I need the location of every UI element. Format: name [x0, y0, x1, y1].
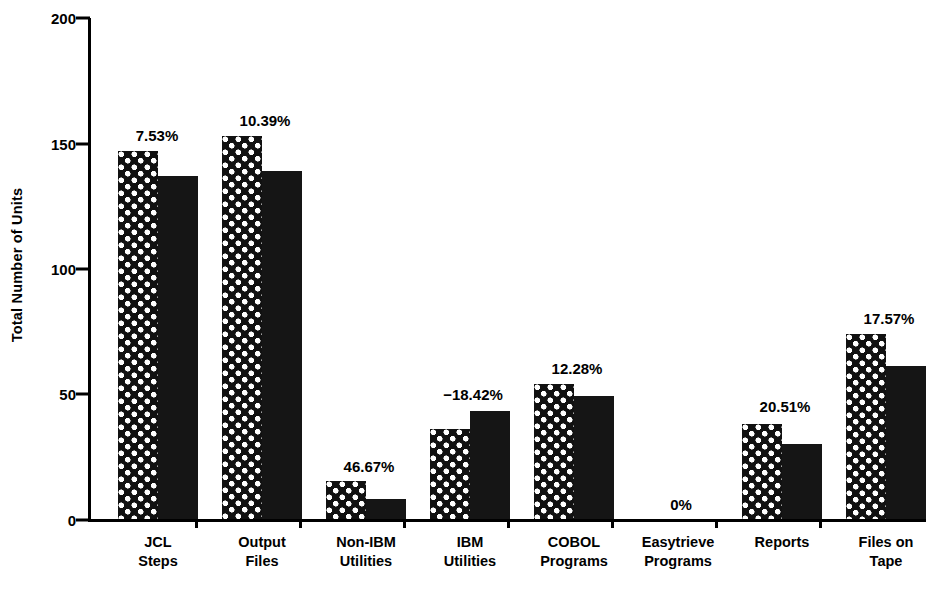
bar-before-jcl-steps: [118, 151, 158, 519]
y-tick-label-150: 150: [28, 136, 76, 153]
x-label-line2: Tape: [859, 552, 914, 571]
x-label-line2: Programs: [642, 552, 715, 571]
x-tick-mark-1: [195, 519, 198, 528]
bar-before-cobol-programs: [534, 384, 574, 519]
y-tick-label-100: 100: [28, 261, 76, 278]
x-tick-mark-7: [819, 519, 822, 528]
bar-annotation-ibm-utilities: −18.42%: [443, 386, 503, 403]
x-label-files-on-tape: Files on Tape: [859, 533, 914, 571]
bar-annotation-jcl-steps: 7.53%: [136, 127, 179, 144]
y-tick-label-50: 50: [28, 386, 76, 403]
y-tick-label-0: 0: [28, 512, 76, 529]
bar-annotation-reports: 20.51%: [760, 398, 811, 415]
x-label-line2: Utilities: [444, 552, 496, 571]
bar-before-files-on-tape: [846, 334, 886, 519]
bar-group-non-ibm-utilities: 46.67%: [299, 18, 403, 519]
bar-before-non-ibm-utilities: [326, 481, 366, 519]
bar-group-cobol-programs: 12.28%: [507, 18, 611, 519]
x-label-line2: Programs: [540, 552, 608, 571]
bar-group-output-files: 10.39%: [195, 18, 299, 519]
bar-group-files-on-tape: 17.57%: [819, 18, 923, 519]
x-label-non-ibm-utilities: Non-IBM Utilities: [336, 533, 396, 571]
bar-after-ibm-utilities: [470, 411, 510, 519]
x-label-line1: Files on: [859, 533, 914, 552]
x-label-line1: Easytrieve: [642, 533, 715, 552]
x-label-line1: JCL: [138, 533, 178, 552]
x-tick-mark-4: [507, 519, 510, 528]
bar-annotation-files-on-tape: 17.57%: [864, 310, 915, 327]
x-label-line2: Steps: [138, 552, 178, 571]
bar-chart: Total Number of Units 200 150 100 50 0 7…: [0, 0, 933, 595]
bar-before-ibm-utilities: [430, 429, 470, 519]
bar-after-reports: [782, 444, 822, 519]
bar-after-non-ibm-utilities: [366, 499, 406, 519]
y-tick-label-200: 200: [28, 10, 76, 27]
x-label-cobol-programs: COBOL Programs: [540, 533, 608, 571]
x-tick-mark-2: [299, 519, 302, 528]
x-tick-mark-3: [403, 519, 406, 528]
x-label-line1: COBOL: [540, 533, 608, 552]
x-label-line1: IBM: [444, 533, 496, 552]
x-label-reports: Reports: [755, 533, 810, 552]
bar-before-output-files: [222, 136, 262, 519]
bar-annotation-easytrieve-programs: 0%: [670, 496, 692, 513]
bar-annotation-cobol-programs: 12.28%: [552, 360, 603, 377]
bar-after-jcl-steps: [158, 176, 198, 519]
bar-before-reports: [742, 424, 782, 519]
x-label-output-files: Output Files: [238, 533, 286, 571]
bar-after-files-on-tape: [886, 366, 926, 519]
bar-group-jcl-steps: 7.53%: [91, 18, 195, 519]
x-label-line2: Files: [238, 552, 286, 571]
bar-group-reports: 20.51%: [715, 18, 819, 519]
bar-group-ibm-utilities: −18.42%: [403, 18, 507, 519]
x-label-ibm-utilities: IBM Utilities: [444, 533, 496, 571]
bar-after-output-files: [262, 171, 302, 519]
bar-after-cobol-programs: [574, 396, 614, 519]
bar-annotation-output-files: 10.39%: [240, 112, 291, 129]
bar-group-easytrieve-programs: 0%: [611, 18, 715, 519]
x-label-line1: Reports: [755, 533, 810, 552]
x-tick-mark-6: [715, 519, 718, 528]
bar-annotation-non-ibm-utilities: 46.67%: [344, 458, 395, 475]
x-label-easytrieve-programs: Easytrieve Programs: [642, 533, 715, 571]
y-axis-tick-labels: 200 150 100 50 0: [28, 0, 76, 595]
y-axis-title-text: Total Number of Units: [9, 188, 25, 343]
x-tick-mark-5: [611, 519, 614, 528]
x-axis-category-labels: JCL Steps Output Files Non-IBM Utilities…: [91, 533, 926, 591]
plot-area: 7.53% 10.39% 46.67% −18.42% 12.28%: [91, 18, 926, 519]
x-label-line1: Output: [238, 533, 286, 552]
x-label-line2: Utilities: [336, 552, 396, 571]
x-label-line1: Non-IBM: [336, 533, 396, 552]
x-label-jcl-steps: JCL Steps: [138, 533, 178, 571]
